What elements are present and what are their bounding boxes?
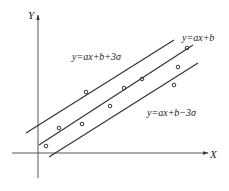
data-point: [176, 65, 180, 69]
lower-line-label: y=ax+b−3σ: [146, 107, 197, 118]
upper-line-label: y=ax+b+3σ: [71, 51, 122, 62]
regression-diagram: Y X y=ax+b+3σ y=ax+b y=ax+b−3σ: [0, 0, 229, 191]
x-axis-label: X: [209, 148, 218, 160]
regression-line-label: y=ax+b: [181, 32, 214, 43]
data-point: [172, 83, 176, 87]
data-point: [44, 144, 48, 148]
data-point: [84, 90, 88, 94]
y-axis-label: Y: [28, 9, 36, 21]
data-point: [57, 126, 61, 130]
data-point: [108, 104, 112, 108]
data-point: [80, 122, 84, 126]
